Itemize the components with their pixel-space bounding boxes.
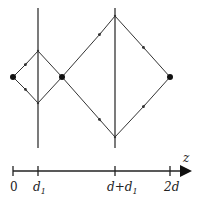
tick-label-d1: d1 xyxy=(33,180,46,196)
ray-diagram: z 0 d1 d+d1 2d xyxy=(0,0,201,204)
axis-arrow-icon xyxy=(180,165,192,177)
lens1-top-node xyxy=(37,50,39,52)
tick-label-0: 0 xyxy=(10,180,18,194)
z-axis xyxy=(13,165,192,177)
lens1-bottom-node xyxy=(37,102,39,104)
lens2-top-node xyxy=(114,15,116,17)
tick-label-d-plus-d1: d+d1 xyxy=(107,180,138,196)
tick-label-2d: 2d xyxy=(163,180,180,194)
lens2-bottom-node xyxy=(114,136,116,138)
middle-point xyxy=(59,74,65,80)
axis-label-z: z xyxy=(182,151,190,165)
source-point xyxy=(10,74,16,80)
large-diamond-rays xyxy=(62,16,170,137)
right-point xyxy=(167,74,173,80)
